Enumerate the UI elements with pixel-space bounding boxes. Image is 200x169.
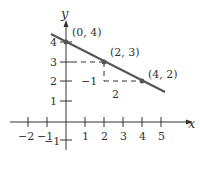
x-tick-label: 2 [101, 130, 108, 143]
x-tick-label: 5 [158, 130, 165, 143]
rise-label: −1 [81, 75, 97, 88]
y-tick-label: −1 [44, 135, 60, 148]
point-label: (4, 2) [148, 68, 178, 81]
x-tick-label: 1 [82, 130, 89, 143]
run-label: 2 [112, 88, 119, 101]
point [64, 40, 69, 45]
slope-diagram: −2 −1 1 2 3 4 5 4 3 2 1 −1 x y −1 2 (0, … [0, 0, 200, 169]
x-tick-label: 3 [120, 130, 127, 143]
x-tick-label: 4 [139, 130, 146, 143]
y-axis-label: y [60, 6, 69, 21]
y-tick-label: 1 [50, 95, 57, 108]
point [140, 79, 145, 84]
y-tick-label: 2 [50, 75, 57, 88]
x-tick-label: −2 [18, 130, 34, 143]
point-label: (0, 4) [72, 26, 102, 39]
y-axis-arrow-icon [64, 20, 69, 27]
y-tick-label: 3 [50, 56, 57, 69]
x-axis-label: x [188, 116, 196, 131]
point-label: (2, 3) [110, 46, 140, 59]
y-tick-label: 4 [50, 36, 57, 49]
point [102, 60, 107, 65]
coordinate-plane: −2 −1 1 2 3 4 5 4 3 2 1 −1 x y −1 2 (0, … [0, 0, 200, 169]
